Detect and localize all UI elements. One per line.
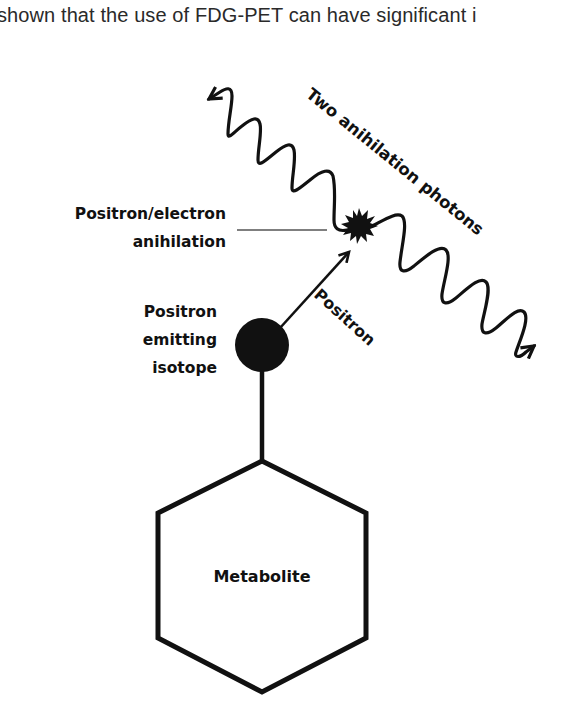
metabolite-label: Metabolite [213, 567, 310, 586]
positron-label: Positron [310, 285, 379, 350]
annihilation-burst-icon [341, 208, 378, 244]
positron-emitting-isotope-circle [235, 318, 289, 372]
pet-diagram: Metabolite Two anihilation photons Posit… [0, 0, 564, 706]
photon-wave-right [372, 215, 534, 357]
